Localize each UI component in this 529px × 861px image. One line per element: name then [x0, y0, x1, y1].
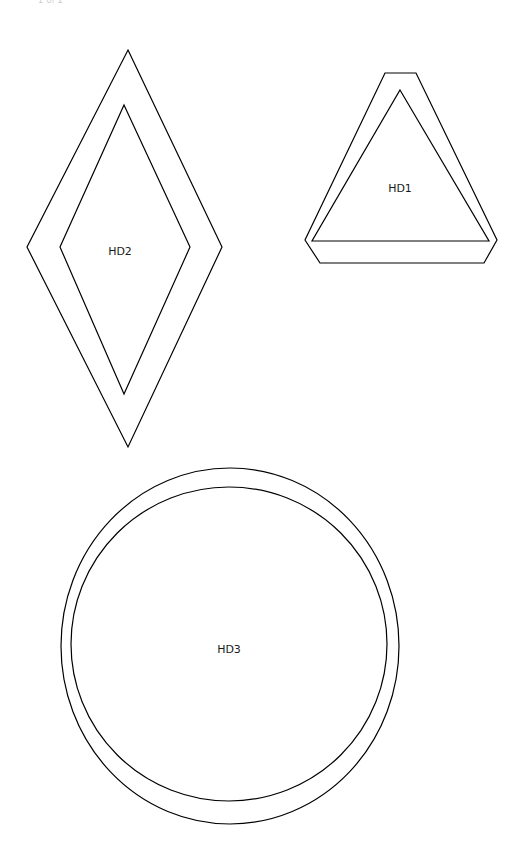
- shape-group-hd1[interactable]: HD1: [305, 73, 497, 263]
- hd1-inner-outline: [312, 90, 489, 241]
- hd3-label: HD3: [217, 643, 241, 656]
- shapes-svg: HD1 HD2 HD3: [0, 0, 529, 861]
- hd2-label: HD2: [108, 245, 132, 258]
- drawing-canvas: 1 of 2 HD1 HD2 HD3: [0, 0, 529, 861]
- hd1-outer-outline: [305, 73, 497, 263]
- shape-group-hd2[interactable]: HD2: [27, 50, 222, 447]
- shape-group-hd3[interactable]: HD3: [61, 468, 399, 824]
- hd1-label: HD1: [388, 182, 412, 195]
- page-header-clipped-text: 1 of 2: [38, 0, 63, 6]
